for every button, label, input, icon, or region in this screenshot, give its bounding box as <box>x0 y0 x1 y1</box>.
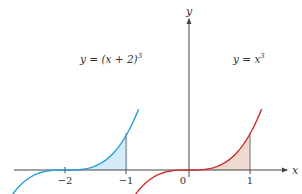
tick-label-neg2: −2 <box>58 175 73 186</box>
tick-label-neg1: −1 <box>119 175 134 186</box>
right-curve-label: y = x3 <box>232 52 265 65</box>
x-axis-label: x <box>292 164 299 177</box>
shaded-area-right <box>189 133 251 170</box>
tick-label-one: 1 <box>247 175 253 186</box>
tick-label-zero: 0 <box>180 175 186 186</box>
y-axis-label: y <box>185 5 193 18</box>
chart: −2 −1 0 1 x y y = (x + 2)3 y = x3 <box>0 0 302 194</box>
shaded-area-left <box>66 133 128 170</box>
left-curve-label: y = (x + 2)3 <box>79 52 143 65</box>
